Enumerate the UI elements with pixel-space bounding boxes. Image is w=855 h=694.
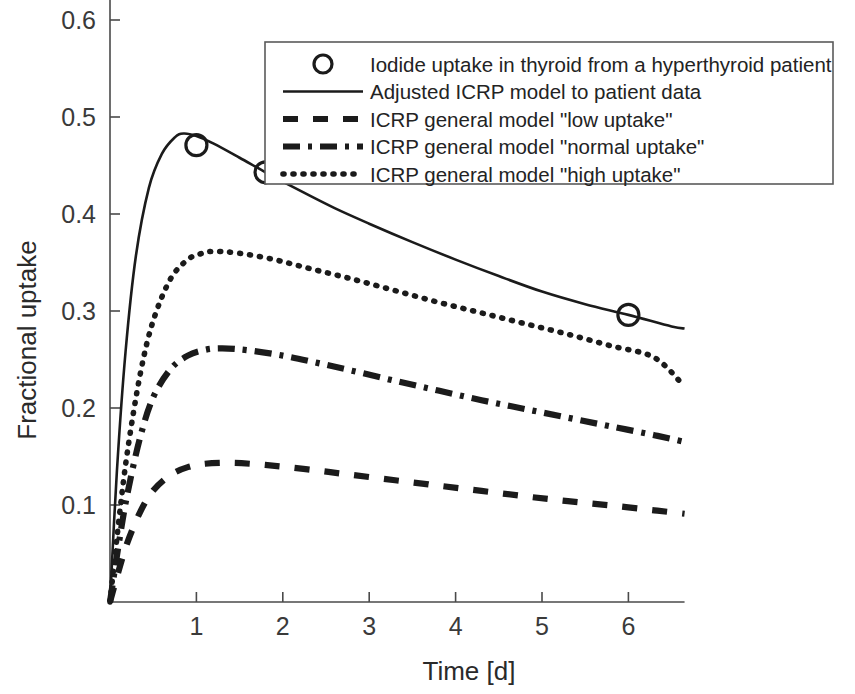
series-line-dotted <box>110 251 685 602</box>
data-series <box>110 133 685 602</box>
x-tick-label: 6 <box>621 612 635 640</box>
y-tick-label: 0.1 <box>61 491 96 519</box>
y-tick-label: 0.4 <box>61 200 96 228</box>
x-tick-label: 5 <box>535 612 549 640</box>
legend-entry-label: ICRP general model "high uptake" <box>370 163 680 186</box>
y-axis-title: Fractional uptake <box>12 240 42 439</box>
legend-entry-label: Adjusted ICRP model to patient data <box>370 80 702 103</box>
x-tick-label: 3 <box>362 612 376 640</box>
legend: Iodide uptake in thyroid from a hyperthy… <box>265 42 833 186</box>
chart-canvas: 0.10.20.30.40.50.6123456 Time [d] Fracti… <box>0 0 855 694</box>
x-axis-title: Time [d] <box>423 656 516 686</box>
series-line-dashdot <box>110 348 685 602</box>
y-tick-label: 0.3 <box>61 297 96 325</box>
legend-entry-label: ICRP general model "normal uptake" <box>370 135 704 158</box>
x-tick-label: 1 <box>189 612 203 640</box>
series-line-solid <box>110 133 685 602</box>
y-tick-label: 0.6 <box>61 6 96 34</box>
legend-entry-label: Iodide uptake in thyroid from a hyperthy… <box>370 53 832 76</box>
legend-entry-label: ICRP general model "low uptake" <box>370 108 672 131</box>
chart-figure: 0.10.20.30.40.50.6123456 Time [d] Fracti… <box>0 0 855 694</box>
y-tick-label: 0.2 <box>61 394 96 422</box>
y-tick-label: 0.5 <box>61 103 96 131</box>
x-tick-label: 2 <box>276 612 290 640</box>
series-line-dashed <box>110 463 685 602</box>
x-tick-label: 4 <box>449 612 463 640</box>
data-point-marker <box>186 135 207 156</box>
